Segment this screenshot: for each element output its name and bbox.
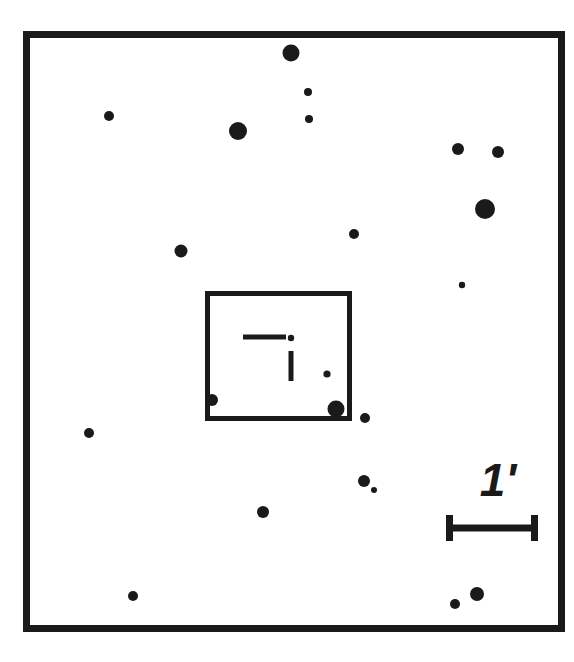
target-center-dot xyxy=(288,335,294,341)
star-marker xyxy=(206,394,218,406)
star-marker xyxy=(128,591,138,601)
star-marker xyxy=(304,88,312,96)
chart-background xyxy=(0,0,574,662)
star-marker xyxy=(470,587,484,601)
star-marker xyxy=(257,506,269,518)
star-marker xyxy=(283,45,300,62)
star-marker xyxy=(452,143,464,155)
scale-bar-label: 1' xyxy=(480,454,519,506)
finder-chart: 1' xyxy=(0,0,574,662)
star-marker xyxy=(328,401,345,418)
finder-chart-canvas: 1' xyxy=(0,0,574,662)
star-marker xyxy=(358,475,370,487)
star-marker xyxy=(323,370,330,377)
star-marker xyxy=(371,487,377,493)
star-marker xyxy=(450,599,460,609)
star-marker xyxy=(104,111,114,121)
star-marker xyxy=(175,245,188,258)
star-marker xyxy=(360,413,370,423)
star-marker xyxy=(84,428,94,438)
star-marker xyxy=(305,115,313,123)
star-marker xyxy=(475,199,495,219)
star-marker xyxy=(459,282,465,288)
star-marker xyxy=(349,229,359,239)
star-marker xyxy=(492,146,504,158)
star-marker xyxy=(229,122,247,140)
